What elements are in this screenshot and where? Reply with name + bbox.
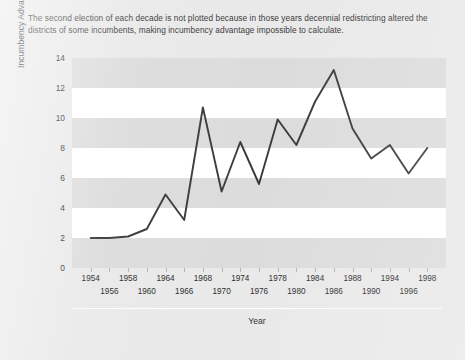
x-tick-mark <box>259 268 260 272</box>
x-tick-label: 1956 <box>100 287 118 296</box>
x-tick-mark <box>427 268 428 272</box>
x-tick-label: 1984 <box>306 274 324 283</box>
x-tick-mark <box>334 268 335 272</box>
x-axis-title: Year <box>72 316 442 326</box>
x-tick-mark <box>240 268 241 272</box>
x-tick-label: 1998 <box>418 274 436 283</box>
y-tick-label: 0 <box>60 263 65 273</box>
x-tick-label: 1988 <box>343 274 361 283</box>
x-tick-mark <box>203 268 204 272</box>
x-tick-mark <box>147 268 148 272</box>
y-tick-label: 8 <box>60 143 65 153</box>
x-tick-label: 1976 <box>250 287 268 296</box>
x-tick-mark <box>128 268 129 272</box>
x-tick-mark <box>184 268 185 272</box>
chart: Incumbency Advantage (Vote Percentage) 0… <box>28 58 446 306</box>
y-axis-title-wrap: Incumbency Advantage (Vote Percentage) <box>28 58 46 268</box>
x-tick-label: 1954 <box>82 274 100 283</box>
x-tick-label: 1966 <box>175 287 193 296</box>
y-tick-label: 12 <box>56 83 65 93</box>
y-axis-title: Incumbency Advantage (Vote Percentage) <box>16 0 30 68</box>
x-tick-label: 1996 <box>399 287 417 296</box>
x-tick-label: 1980 <box>287 287 305 296</box>
x-tick-label: 1960 <box>138 287 156 296</box>
figure-note: The second election of each decade is no… <box>28 12 448 37</box>
x-tick-mark <box>222 268 223 272</box>
x-tick-label: 1964 <box>156 274 174 283</box>
x-tick-mark <box>91 268 92 272</box>
x-tick-label: 1968 <box>194 274 212 283</box>
source-note-cropped <box>10 353 310 360</box>
figure-page: The second election of each decade is no… <box>0 0 465 360</box>
x-tick-mark <box>109 268 110 272</box>
x-tick-label: 1978 <box>269 274 287 283</box>
x-tick-mark <box>371 268 372 272</box>
y-axis-ticks: 02468101214 <box>46 58 68 268</box>
plot-area <box>72 58 446 268</box>
x-tick-mark <box>166 268 167 272</box>
x-tick-label: 1994 <box>381 274 399 283</box>
data-line-svg <box>72 58 446 268</box>
incumbency-advantage-line <box>91 70 428 238</box>
y-tick-label: 14 <box>56 53 65 63</box>
y-tick-label: 4 <box>60 203 65 213</box>
y-tick-label: 2 <box>60 233 65 243</box>
x-tick-mark <box>353 268 354 272</box>
x-tick-mark <box>390 268 391 272</box>
y-tick-label: 10 <box>56 113 65 123</box>
x-axis-ticks: 1954195619581960196419661968197019741976… <box>72 268 446 304</box>
x-tick-mark <box>296 268 297 272</box>
x-tick-label: 1974 <box>231 274 249 283</box>
x-tick-mark <box>409 268 410 272</box>
x-tick-mark <box>315 268 316 272</box>
x-tick-label: 1970 <box>212 287 230 296</box>
x-tick-label: 1986 <box>325 287 343 296</box>
y-tick-label: 6 <box>60 173 65 183</box>
x-tick-label: 1990 <box>362 287 380 296</box>
axis-rule <box>72 308 442 309</box>
x-tick-label: 1958 <box>119 274 137 283</box>
x-tick-mark <box>278 268 279 272</box>
